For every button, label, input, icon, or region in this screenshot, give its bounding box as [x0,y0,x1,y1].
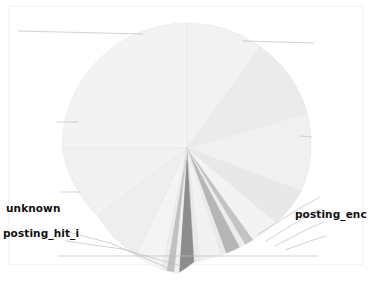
chart-figure: unknown posting_hit_i posting_enc [0,0,372,285]
pie-wedge-slice-19[interactable] [62,23,187,148]
leader-line-enc-4 [285,236,326,250]
leader-line-top-left [18,31,143,34]
pie-label-posting-hit-i: posting_hit_i [3,228,79,239]
pie-label-posting-enc: posting_enc [295,209,367,220]
center-marker [186,147,188,149]
pie-chart-svg [0,0,372,285]
pie-label-unknown: unknown [6,203,61,214]
leader-line-enc-3 [275,222,324,246]
